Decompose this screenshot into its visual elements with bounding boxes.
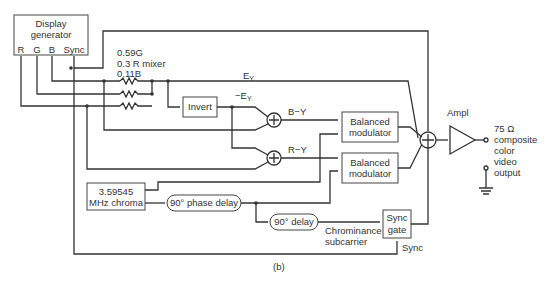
figure-caption: (b) <box>273 261 285 272</box>
svg-text:modulator: modulator <box>349 127 391 138</box>
port-b: B <box>49 44 55 55</box>
output-terminal <box>484 138 488 142</box>
mixer-line3: 0.11B <box>117 68 141 79</box>
invert-block: Invert <box>183 97 217 117</box>
port-r: R <box>18 44 25 55</box>
sum-junction-main <box>420 132 436 148</box>
svg-text:MHz chroma: MHz chroma <box>89 197 144 208</box>
r-minus-y-label: R−Y <box>288 144 307 155</box>
amplifier-icon: Ampl <box>447 107 475 154</box>
output-label-1: composite <box>494 134 537 145</box>
svg-text:Balanced: Balanced <box>350 157 390 168</box>
sum-junction-r-y <box>267 151 281 165</box>
sync-label: Sync <box>402 242 423 253</box>
subcarrier-label: subcarrier <box>325 236 367 247</box>
svg-text:90° delay: 90° delay <box>274 216 314 227</box>
svg-text:90° phase delay: 90° phase delay <box>170 197 238 208</box>
ground-icon <box>479 170 493 194</box>
display-generator-block: Display generator R G B Sync <box>14 15 88 55</box>
display-generator-line2: generator <box>31 29 72 40</box>
port-sync: Sync <box>63 44 84 55</box>
neg-ey-label: −EY <box>235 90 252 102</box>
sync-gate-block: Sync gate <box>383 210 411 238</box>
svg-text:3.59545: 3.59545 <box>99 186 133 197</box>
sum-junction-b-y <box>267 113 281 127</box>
output-label-2: color <box>494 145 515 156</box>
block-diagram: Display generator R G B Sync 0.59G 0.3 R… <box>0 0 551 286</box>
phase-delay-block: 90° phase delay <box>167 195 241 211</box>
output-label-3: video <box>494 156 517 167</box>
port-g: G <box>33 44 40 55</box>
svg-text:Balanced: Balanced <box>350 116 390 127</box>
amplifier-label: Ampl <box>447 107 469 118</box>
output-label-4: output <box>494 167 521 178</box>
delay-90-block: 90° delay <box>270 214 318 230</box>
resistor-icon <box>120 78 152 109</box>
chroma-oscillator-block: 3.59545 MHz chroma <box>87 183 145 210</box>
chrominance-label: Chrominance <box>325 225 382 236</box>
b-minus-y-label: B−Y <box>288 106 307 117</box>
svg-text:modulator: modulator <box>349 168 391 179</box>
svg-text:Invert: Invert <box>188 101 212 112</box>
svg-text:gate: gate <box>388 224 407 235</box>
display-generator-line1: Display <box>35 18 66 29</box>
output-ohm-label: 75 Ω <box>494 123 514 134</box>
svg-text:Sync: Sync <box>386 212 407 223</box>
mixer-line1: 0.59G <box>117 47 143 58</box>
ey-label: EY <box>243 70 254 82</box>
balanced-modulator-1: Balanced modulator <box>342 112 398 142</box>
balanced-modulator-2: Balanced modulator <box>342 153 398 183</box>
